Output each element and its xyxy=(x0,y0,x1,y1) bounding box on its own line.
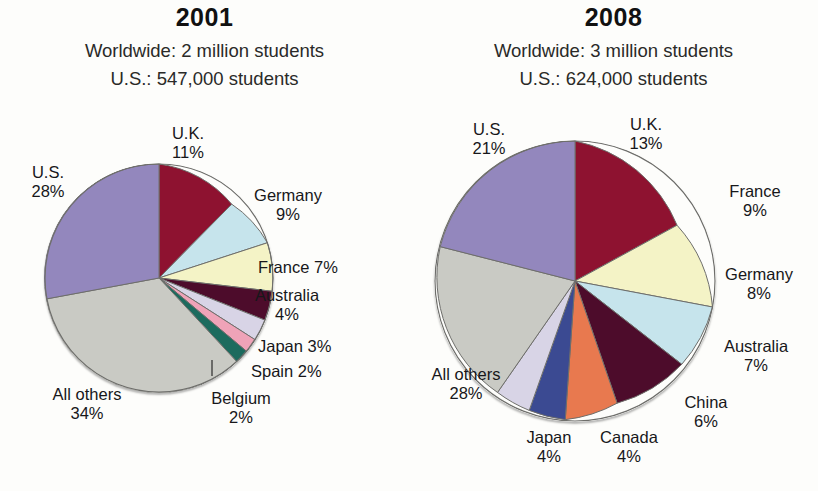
slice-pct-australia-2008: 7% xyxy=(707,356,805,375)
slice-name-france-2008: France xyxy=(729,182,780,200)
subtitle-us-2008: U.S.: 624,000 students xyxy=(409,68,818,90)
slice-pct-all-others-2008: 28% xyxy=(411,384,521,403)
slice-pct-germany-2008: 8% xyxy=(711,284,807,303)
slice-name-canada-2008: Canada xyxy=(600,428,658,446)
slice-label-china-2008: China 6% xyxy=(670,393,742,432)
slice-pct-australia-2001: 4% xyxy=(238,305,336,324)
subtitle-worldwide-2008: Worldwide: 3 million students xyxy=(409,40,818,62)
slice-label-canada-2008: Canada 4% xyxy=(588,428,670,467)
slice-pct-france-2008: 9% xyxy=(715,201,795,220)
slice-label-australia-2008: Australia 7% xyxy=(707,337,805,376)
leader-line-spain-2001 xyxy=(211,360,213,376)
slice-label-japan-2008: Japan 4% xyxy=(513,428,585,467)
slice-label-uk-2001: U.K. 11% xyxy=(150,124,226,163)
slice-label-france-2001: France 7% xyxy=(258,258,338,277)
slice-pct-uk-2001: 11% xyxy=(150,143,226,162)
slice-label-spain-2001: Spain 2% xyxy=(251,362,322,381)
slice-pct-us-2001: 28% xyxy=(10,182,86,201)
slice-label-all-others-2001: All others 34% xyxy=(32,385,142,424)
page-title-2008: 2008 xyxy=(409,3,818,32)
subtitle-worldwide-2001: Worldwide: 2 million students xyxy=(0,40,409,62)
slice-pct-belgium-2001: 2% xyxy=(196,408,286,427)
slice-name-all-others-2001: All others xyxy=(53,385,122,403)
slice-pct-france-2001: 7% xyxy=(314,258,338,276)
slice-label-belgium-2001: Belgium 2% xyxy=(196,389,286,428)
chart-panel-2001: 2001 Worldwide: 2 million students U.S.:… xyxy=(0,0,409,491)
page-title-2001: 2001 xyxy=(0,3,409,32)
slice-name-germany-2008: Germany xyxy=(725,265,793,283)
infographic-page: 2001 Worldwide: 2 million students U.S.:… xyxy=(0,0,818,491)
slice-name-france-2001: France xyxy=(258,258,309,276)
slice-label-all-others-2008: All others 28% xyxy=(411,365,521,404)
slice-label-australia-2001: Australia 4% xyxy=(238,286,336,325)
slice-label-france-2008: France 9% xyxy=(715,182,795,221)
slice-name-germany-2001: Germany xyxy=(254,186,322,204)
slice-name-japan-2001: Japan xyxy=(258,337,303,355)
slice-pct-all-others-2001: 34% xyxy=(32,404,142,423)
slice-label-germany-2008: Germany 8% xyxy=(711,265,807,304)
slice-pct-us-2008: 21% xyxy=(451,139,527,158)
slice-label-japan-2001: Japan 3% xyxy=(258,337,331,356)
slice-pct-uk-2008: 13% xyxy=(608,134,684,153)
slice-name-us-2008: U.S. xyxy=(473,120,505,138)
slice-name-japan-2008: Japan xyxy=(527,428,572,446)
chart-panel-2008: 2008 Worldwide: 3 million students U.S.:… xyxy=(409,0,818,491)
slice-label-us-2001: U.S. 28% xyxy=(10,163,86,202)
slice-name-australia-2001: Australia xyxy=(255,286,319,304)
slice-name-spain-2001: Spain xyxy=(251,362,293,380)
slice-name-belgium-2001: Belgium xyxy=(211,389,271,407)
slice-label-uk-2008: U.K. 13% xyxy=(608,115,684,154)
slice-name-uk-2008: U.K. xyxy=(630,115,662,133)
slice-pct-china-2008: 6% xyxy=(670,412,742,431)
slice-pct-spain-2001: 2% xyxy=(298,362,322,380)
slice-name-uk-2001: U.K. xyxy=(172,124,204,142)
slice-name-china-2008: China xyxy=(684,393,727,411)
subtitle-us-2001: U.S.: 547,000 students xyxy=(0,68,409,90)
slice-pct-japan-2001: 3% xyxy=(308,337,332,355)
slice-label-germany-2001: Germany 9% xyxy=(240,186,336,225)
slice-pct-japan-2008: 4% xyxy=(513,447,585,466)
slice-name-us-2001: U.S. xyxy=(32,163,64,181)
slice-pct-germany-2001: 9% xyxy=(240,205,336,224)
slice-name-all-others-2008: All others xyxy=(432,365,501,383)
slice-pct-canada-2008: 4% xyxy=(588,447,670,466)
slice-label-us-2008: U.S. 21% xyxy=(451,120,527,159)
slice-name-australia-2008: Australia xyxy=(724,337,788,355)
